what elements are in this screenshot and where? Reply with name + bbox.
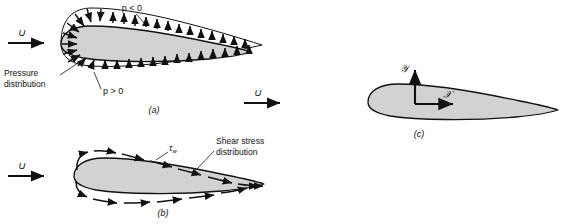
p-negative-label: p < 0	[122, 3, 142, 13]
freestream-label-b: U	[19, 160, 26, 171]
shear-stress-label-line2: distribution	[216, 147, 258, 157]
panel-b-freestream: U	[8, 160, 44, 176]
pressure-distribution-label-line1: Pressure	[4, 68, 39, 78]
freestream-label-a: U	[19, 27, 26, 38]
panel-a-caption: (a)	[149, 105, 160, 115]
pressure-distribution-label-line2: distribution	[4, 79, 46, 89]
p-positive-leader	[94, 72, 101, 89]
tau-subscript: w	[172, 148, 177, 154]
shear-stress-distribution-annotation: Shear stress distribution	[196, 136, 264, 170]
panel-a: U	[4, 3, 262, 115]
tau-wall-label: τw	[169, 143, 177, 154]
panel-c-caption: (c)	[414, 129, 425, 139]
shear-stress-label-line1: Shear stress	[216, 136, 264, 146]
airfoil-forces-figure: U	[0, 0, 574, 224]
p-negative-annotation: p < 0	[122, 3, 146, 25]
p-positive-annotation: p > 0	[94, 72, 123, 96]
pressure-distribution-annotation: Pressure distribution	[4, 63, 78, 89]
y-axis-label: 𝒴	[400, 63, 411, 74]
p-negative-leader	[136, 14, 146, 25]
p-positive-label: p > 0	[103, 86, 123, 96]
airfoil-body-a	[61, 26, 251, 62]
tau-wall-leader	[156, 152, 168, 160]
tau-wall-annotation: τw	[156, 143, 177, 160]
pressure-distribution-leader	[60, 63, 78, 75]
shear-stress-leader	[196, 151, 214, 170]
airfoil-body-c	[368, 84, 558, 120]
airfoil-body-b	[74, 158, 264, 194]
panel-c: U 𝒴 𝒳 (c)	[244, 63, 558, 139]
panel-b-caption: (b)	[158, 208, 169, 218]
panel-c-freestream: U	[244, 87, 280, 103]
panel-a-freestream: U	[8, 27, 44, 43]
freestream-label-c: U	[255, 87, 262, 98]
panel-b: U τw	[8, 136, 264, 218]
